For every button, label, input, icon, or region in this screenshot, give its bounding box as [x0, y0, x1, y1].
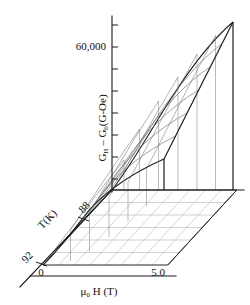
x-axis-tick-label-0: 0 [38, 266, 44, 278]
iso-curve-back-edge [112, 22, 233, 190]
iso-curve-91 [55, 136, 176, 253]
vertical-axis [112, 16, 118, 192]
depth-tick-label-92: 92 [19, 249, 35, 265]
xaxis-h: H (T) [90, 285, 118, 298]
depth-axis-title-text: T(K) [35, 207, 60, 232]
vaxis-minus: – [96, 138, 108, 149]
vertical-axis-title: GH – G0(G-Oe) [96, 94, 110, 162]
x-axis-tick-label-5: 5.0 [151, 266, 165, 278]
x-axis-title: μ0 H (T) [81, 285, 118, 299]
vertical-axis-tick-label-60000: 60,000 [76, 40, 107, 52]
iso-curve-90 [66, 113, 187, 240]
iso-curve-front-edge [43, 159, 164, 265]
vaxis-g: G [96, 154, 108, 162]
depth-axis [20, 190, 112, 287]
svg-text:GH – G0(G-Oe): GH – G0(G-Oe) [96, 94, 110, 162]
depth-axis-title: T(K) [35, 207, 60, 232]
plot-canvas: 60,000 GH – G0(G-Oe) T(K) 92 88 0 5.0 μ0… [0, 0, 250, 305]
iso-curve-87 [101, 44, 222, 203]
surface-plot-figure: 60,000 GH – G0(G-Oe) T(K) 92 88 0 5.0 μ0… [0, 0, 250, 305]
svg-text:92: 92 [19, 249, 35, 265]
vaxis-units: (G-Oe) [96, 94, 109, 126]
surface-right-edge [164, 22, 233, 190]
depth-axis-line [20, 190, 112, 287]
vaxis-g0: G [96, 130, 108, 138]
